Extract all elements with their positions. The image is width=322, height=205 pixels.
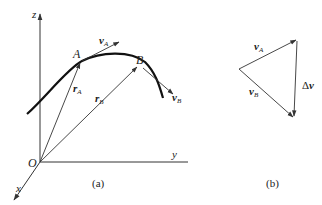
rA-label: rA (73, 82, 82, 96)
y-axis-label: y (171, 148, 177, 160)
vB-label: vB (172, 91, 182, 105)
delta-v-label: Δv (302, 79, 314, 91)
rB-label: rB (95, 92, 104, 106)
point-A-label: A (72, 47, 81, 61)
triangle-delta-v (294, 41, 297, 116)
caption-b: (b) (266, 177, 279, 190)
kinematics-diagram: z y x O A B vA vB rA rB (a) vA vB Δv (0, 0, 322, 205)
position-vector-rB (40, 67, 137, 162)
position-vector-rA (40, 63, 80, 162)
x-axis-label: x (15, 182, 21, 194)
point-B-label: B (136, 53, 144, 67)
triangle-vB-label: vB (249, 85, 259, 99)
triangle-vB (239, 69, 293, 117)
caption-a: (a) (92, 177, 105, 190)
figure-a: z y x O A B vA vB rA rB (a) (14, 8, 188, 200)
triangle-vA (239, 40, 296, 69)
vA-label: vA (99, 34, 109, 48)
z-axis-label: z (31, 8, 37, 20)
figure-b: vA vB Δv (b) (239, 40, 314, 190)
triangle-vA-label: vA (254, 40, 264, 54)
origin-label: O (28, 156, 37, 170)
velocity-vector-vB (143, 68, 173, 94)
